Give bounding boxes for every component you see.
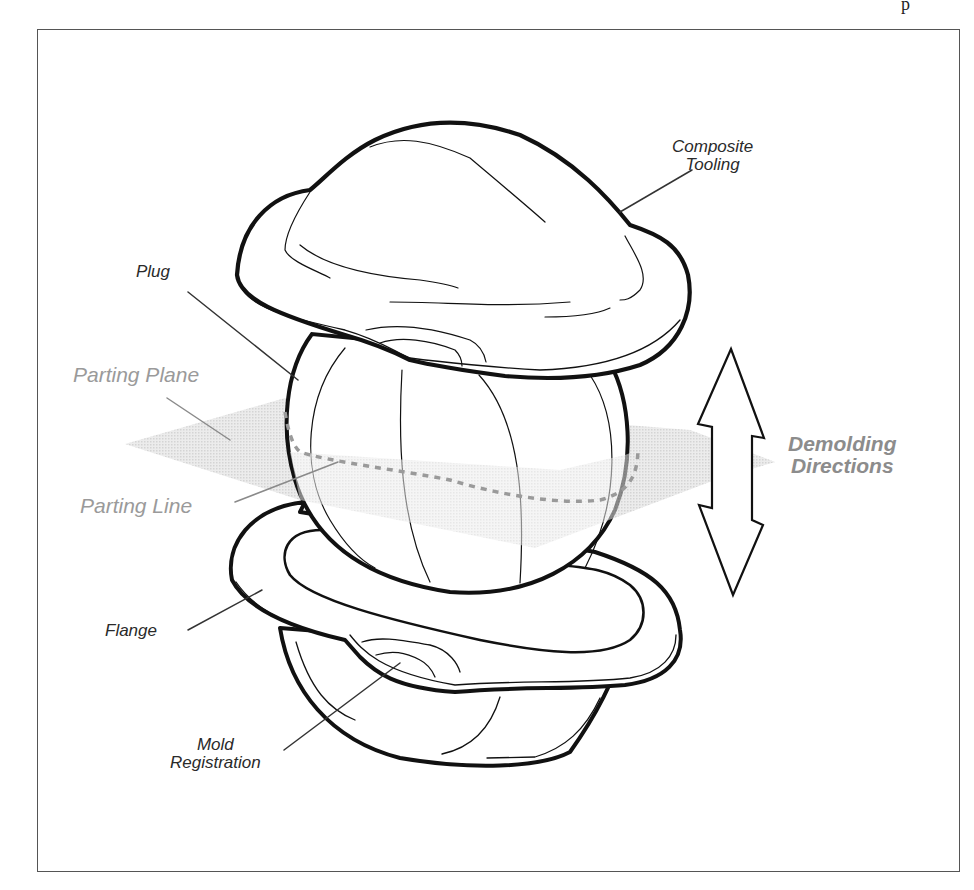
label-composite-tooling-line2: Tooling <box>672 156 753 174</box>
label-demolding-line1: Demolding <box>788 433 897 455</box>
upper-composite-tooling <box>237 123 690 378</box>
label-mold-registration-line1: Mold <box>170 736 261 754</box>
label-demolding-line2: Directions <box>788 455 897 477</box>
label-flange: Flange <box>105 622 157 640</box>
label-parting-plane: Parting Plane <box>73 364 199 386</box>
leader-composite-tooling <box>620 170 692 212</box>
label-plug: Plug <box>136 263 170 281</box>
label-mold-registration: Mold Registration <box>170 736 261 772</box>
label-demolding-directions: Demolding Directions <box>788 433 897 477</box>
label-parting-line: Parting Line <box>80 495 192 517</box>
label-composite-tooling-line1: Composite <box>672 138 753 156</box>
leader-flange <box>188 590 262 630</box>
label-composite-tooling: Composite Tooling <box>672 138 753 174</box>
label-mold-registration-line2: Registration <box>170 754 261 772</box>
